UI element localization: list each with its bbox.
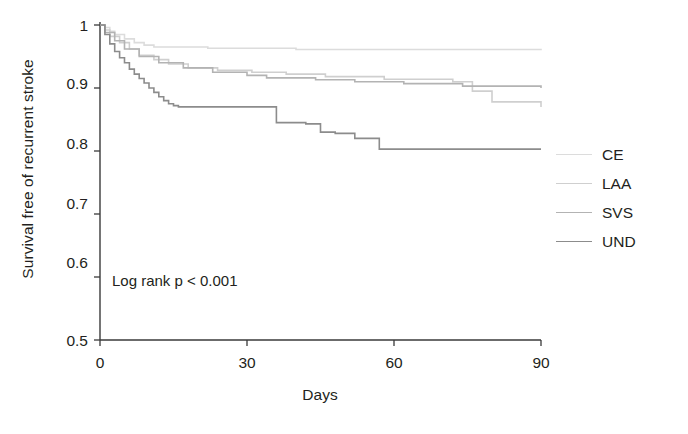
curve-ce (100, 25, 541, 50)
legend-item-und[interactable]: UND (556, 227, 682, 256)
x-tick-label-30: 30 (227, 355, 267, 371)
y-tick-label-0-6: 0.6 (42, 255, 88, 271)
legend-swatch-ce (556, 154, 592, 155)
x-tick-label-60: 60 (374, 355, 414, 371)
legend-swatch-svs (556, 212, 592, 213)
legend-swatch-laa (556, 183, 592, 184)
legend-item-svs[interactable]: SVS (556, 198, 682, 227)
survival-curves (100, 25, 541, 149)
legend-item-ce[interactable]: CE (556, 140, 682, 169)
x-tick-label-90: 90 (521, 355, 561, 371)
legend-item-laa[interactable]: LAA (556, 169, 682, 198)
y-tick-label-0-7: 0.7 (42, 196, 88, 212)
axes (100, 22, 541, 340)
y-tick-label-0-5: 0.5 (42, 333, 88, 349)
y-tick-label-1: 1 (42, 18, 88, 34)
curve-und (100, 25, 541, 149)
legend: CE LAA SVS UND (556, 140, 682, 256)
y-axis-title: Survival free of recurrent stroke (19, 19, 37, 319)
x-axis-title: Days (100, 386, 540, 404)
legend-label-laa: LAA (602, 176, 631, 192)
y-tick-label-0-8: 0.8 (42, 136, 88, 152)
legend-label-svs: SVS (602, 205, 633, 221)
kaplan-meier-chart: Survival free of recurrent stroke Days 1… (0, 0, 688, 434)
y-tick-label-0-9: 0.9 (42, 76, 88, 92)
axis-ticks (94, 25, 541, 346)
log-rank-annotation: Log rank p < 0.001 (112, 272, 238, 289)
curve-svs (100, 25, 541, 88)
legend-label-und: UND (602, 234, 636, 250)
x-tick-label-0: 0 (80, 355, 120, 371)
curve-laa (100, 25, 541, 107)
legend-swatch-und (556, 241, 592, 242)
legend-label-ce: CE (602, 147, 624, 163)
